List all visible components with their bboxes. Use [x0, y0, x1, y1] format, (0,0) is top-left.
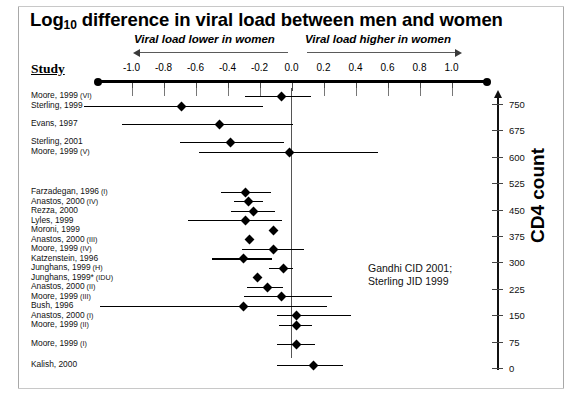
estimate-point-marker: [240, 216, 250, 226]
study-name: Anastos, 2000: [31, 281, 85, 291]
study-label: Moore, 1999 (II): [31, 320, 89, 329]
estimate-point-marker: [239, 254, 249, 264]
study-cohort-number: (V): [78, 147, 90, 156]
x-tick-label: 0.8: [413, 62, 427, 73]
cd4-axis-arrow-icon: [494, 90, 502, 98]
study-cohort-number: (IDU): [94, 273, 113, 282]
study-name: Anastos, 2000: [31, 196, 85, 206]
study-label: Moore, 1999 (V): [31, 147, 90, 156]
cd4-tick-label: 675: [509, 125, 525, 136]
study-label: Evans, 1997: [31, 119, 78, 128]
estimate-point-marker: [277, 292, 287, 302]
estimate-point-marker: [277, 91, 287, 101]
x-tick-label: 0.4: [349, 62, 363, 73]
x-tick-label: 1.0: [445, 62, 459, 73]
estimate-point-marker: [279, 263, 289, 273]
cd4-tick-label: 750: [509, 99, 525, 110]
forest-plot-figure: Log10 difference in viral load between m…: [0, 0, 582, 399]
x-axis-cap-left: [94, 78, 102, 86]
cd4-tick-label: 225: [509, 283, 525, 294]
title-subscript: 10: [64, 18, 77, 32]
cd4-tick: [492, 210, 503, 211]
study-name: Moore, 1999: [31, 319, 78, 329]
study-cohort-number: (I): [85, 311, 94, 320]
study-name: Junghans, 1999*: [31, 272, 94, 282]
left-arrow-icon: [140, 52, 288, 53]
estimate-point-marker: [245, 235, 255, 245]
estimate-point-marker: [291, 339, 301, 349]
estimate-point-marker: [269, 225, 279, 235]
confidence-interval-line: [100, 306, 327, 308]
x-tick-label: -0.4: [219, 62, 236, 73]
study-name: Sterling, 2001: [31, 136, 83, 146]
cd4-tick-label: 300: [509, 257, 525, 268]
estimate-point-marker: [226, 137, 236, 147]
title-rest: difference in viral load between men and…: [77, 9, 503, 30]
cd4-axis-line: [497, 97, 499, 370]
study-name: Anastos, 2000: [31, 234, 85, 244]
study-name: Moore, 1999: [31, 243, 78, 253]
right-arrow-icon: [307, 52, 455, 53]
x-tick-label: -0.8: [155, 62, 172, 73]
cd4-tick: [492, 183, 503, 184]
study-cohort-number: (III): [85, 235, 98, 244]
study-label: Sterling, 1999: [31, 101, 83, 110]
study-label: Moore, 1999 (VI): [31, 91, 92, 100]
study-name: Moore, 1999: [31, 90, 78, 100]
study-name: Kalish, 2000: [31, 359, 77, 369]
study-cohort-number: (III): [78, 292, 91, 301]
study-name: Moore, 1999: [31, 338, 78, 348]
study-name: Moore, 1999: [31, 291, 78, 301]
confidence-interval-line: [122, 124, 293, 125]
cd4-tick: [492, 157, 503, 158]
cd4-tick: [492, 342, 503, 343]
study-name: Bush, 1996: [31, 300, 73, 310]
left-arrow-head-icon: [133, 49, 140, 57]
title-main: Log: [30, 9, 64, 30]
cd4-tick-label: 0: [509, 363, 514, 374]
source-annotation: Gandhi CID 2001; Sterling JID 1999: [368, 262, 452, 288]
study-cohort-number: (II): [78, 320, 89, 329]
study-name: Evans, 1997: [31, 118, 78, 128]
chart-title: Log10 difference in viral load between m…: [30, 9, 560, 31]
study-cohort-number: (I): [99, 187, 108, 196]
estimate-point-marker: [291, 311, 301, 321]
study-cohort-number: (II): [85, 282, 96, 291]
study-cohort-number: (I): [78, 339, 87, 348]
cd4-axis-title: CD4 count: [527, 148, 549, 243]
cd4-tick: [492, 262, 503, 263]
cd4-tick-label: 600: [509, 151, 525, 162]
study-cohort-number: (VI): [78, 91, 92, 100]
cd4-tick-label: 150: [509, 310, 525, 321]
right-arrow-head-icon: [455, 49, 462, 57]
x-tick-label: 0.2: [317, 62, 331, 73]
study-label: Kalish, 2000: [31, 360, 77, 369]
x-tick-label: -0.6: [187, 62, 204, 73]
study-label: Sterling, 2001: [31, 137, 83, 146]
estimate-point-marker: [291, 320, 301, 330]
cd4-tick-label: 450: [509, 204, 525, 215]
figure-border-bottom: [18, 388, 564, 389]
cd4-tick: [492, 104, 503, 105]
cd4-tick: [492, 289, 503, 290]
estimate-point-marker: [253, 273, 263, 283]
confidence-interval-line: [244, 296, 332, 297]
estimate-point-marker: [239, 301, 249, 311]
x-tick-label: 0.0: [285, 62, 299, 73]
confidence-interval-line: [84, 106, 263, 107]
study-cohort-number: (IV): [85, 197, 99, 206]
cd4-tick: [492, 368, 503, 369]
estimate-point-marker: [269, 244, 279, 254]
study-name: Moroni, 1999: [31, 224, 80, 234]
figure-border-top: [18, 6, 564, 7]
estimate-point-marker: [285, 147, 295, 157]
direction-label-higher: Viral load higher in women: [305, 33, 451, 45]
cd4-tick: [492, 130, 503, 131]
cd4-tick: [492, 315, 503, 316]
confidence-interval-line: [188, 220, 282, 221]
study-column-header: Study: [31, 61, 65, 77]
estimate-point-marker: [215, 119, 225, 129]
cd4-tick: [492, 236, 503, 237]
study-name: Moore, 1999: [31, 146, 78, 156]
study-name: Rezza, 2000: [31, 205, 78, 215]
